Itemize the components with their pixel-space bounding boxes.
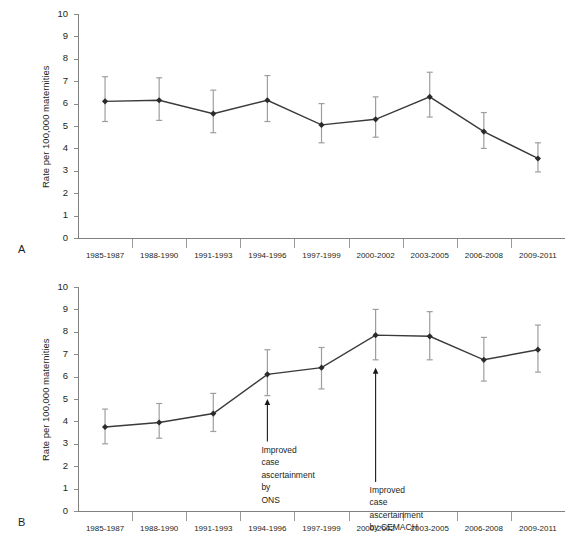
panel-b-annotation-arrow bbox=[373, 368, 379, 482]
panel-a: A Rate per 100,000 maternities 012345678… bbox=[0, 0, 574, 273]
panel-a-data-point bbox=[264, 97, 270, 103]
panel-a-data-point bbox=[318, 122, 324, 128]
panel-a-data-point bbox=[535, 155, 541, 161]
figure-maternal-mortality-rates: A Rate per 100,000 maternities 012345678… bbox=[0, 0, 574, 546]
panel-b: B Rate per 100,000 maternities 012345678… bbox=[0, 273, 574, 546]
panel-a-data-point bbox=[373, 116, 379, 122]
panel-b-data-point bbox=[535, 347, 541, 353]
panel-a-data-point bbox=[210, 111, 216, 117]
panel-b-data-point bbox=[102, 424, 108, 430]
panel-a-data-point bbox=[102, 98, 108, 104]
panel-b-data-point bbox=[156, 419, 162, 425]
panel-b-data-point bbox=[481, 357, 487, 363]
panel-b-data-point bbox=[427, 333, 433, 339]
panel-b-annotation-arrow bbox=[265, 399, 271, 442]
panel-b-series bbox=[0, 273, 574, 546]
panel-a-series bbox=[0, 0, 574, 273]
panel-a-data-point bbox=[156, 97, 162, 103]
panel-b-data-point bbox=[318, 365, 324, 371]
panel-b-data-point bbox=[373, 332, 379, 338]
